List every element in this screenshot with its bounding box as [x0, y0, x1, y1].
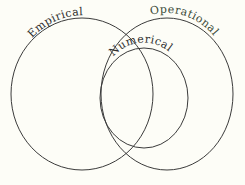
set-circle-numerical[interactable] — [100, 48, 188, 148]
venn-diagram-svg: Empirical Operational Numerical — [0, 0, 245, 185]
set-label-empirical-text: Empirical — [25, 5, 83, 40]
set-label-empirical: Empirical — [25, 5, 83, 40]
set-label-numerical: Numerical — [106, 32, 175, 58]
set-label-numerical-text: Numerical — [106, 32, 175, 58]
venn-diagram-canvas: Empirical Operational Numerical — [0, 0, 245, 185]
